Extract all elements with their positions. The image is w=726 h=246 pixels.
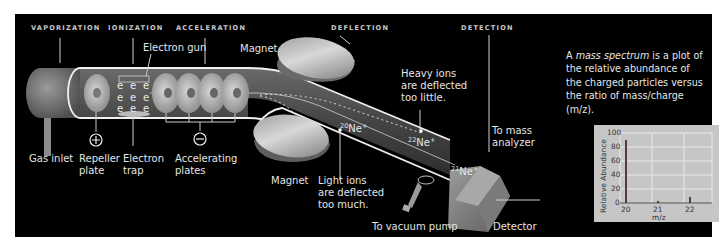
stage-detection: DETECTION <box>461 24 514 32</box>
label-detector: Detector <box>493 221 537 233</box>
ion-ne21: 21Ne+ <box>451 165 478 177</box>
label-mass-analyzer: To mass analyzer <box>492 125 535 149</box>
mass-spectrum-chart: Relative Abundance 100 80 60 40 20 0 20 … <box>594 125 719 222</box>
label-repeller-plate: Repeller plate <box>79 153 120 177</box>
label-electron-gun: Electron gun <box>143 42 206 54</box>
label-magnet-top: Magnet <box>240 43 278 55</box>
gas-inlet-pipe <box>44 118 51 156</box>
ion-ne22: 22Ne+ <box>408 136 435 148</box>
label-light-ions: Light ions are deflected too much. <box>318 175 384 211</box>
label-vacuum-pump: To vacuum pump <box>372 221 458 233</box>
label-accelerating-plates: Accelerating plates <box>175 153 237 177</box>
bar-mz-22 <box>689 197 691 203</box>
label-electron-trap: Electron trap <box>123 153 164 177</box>
label-magnet-bottom: Magnet <box>271 175 309 187</box>
label-heavy-ions: Heavy ions are deflected too little. <box>401 68 467 104</box>
ion-ne20: 20Ne+ <box>340 122 367 134</box>
bar-mz-20 <box>625 140 627 203</box>
mass-spectrum-caption: A mass spectrum is a plot of the relativ… <box>566 49 706 116</box>
vacuum-pump-port <box>402 176 434 212</box>
bar-mz-21 <box>657 201 659 203</box>
stage-ionization: IONIZATION <box>108 24 163 32</box>
label-gas-inlet: Gas inlet <box>29 153 73 165</box>
stage-vaporization: VAPORIZATION <box>31 24 101 32</box>
stage-acceleration: ACCELERATION <box>176 24 246 32</box>
stage-deflection: DEFLECTION <box>331 24 389 32</box>
